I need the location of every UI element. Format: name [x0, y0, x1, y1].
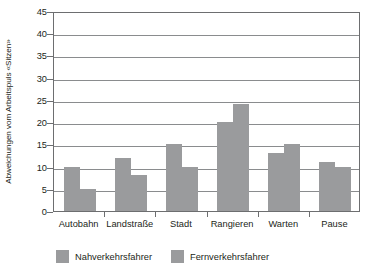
- y-axis-tick-label: 45: [37, 7, 47, 17]
- bar: [115, 158, 131, 211]
- bar: [319, 162, 335, 211]
- bar: [182, 167, 198, 211]
- x-axis-category-label: Pause: [321, 219, 347, 229]
- legend-label: Fernverkehrsfahrer: [190, 252, 269, 262]
- bar-chart-figure: Abweichungen vom Arbeitspuls «Sitzen» 05…: [0, 0, 369, 279]
- x-axis-tick-mark: [207, 212, 208, 217]
- y-axis-tick-label: 20: [37, 118, 47, 128]
- y-axis-title: Abweichungen vom Arbeitspuls «Sitzen»: [0, 0, 16, 222]
- legend-label: Nahverkehrsfahrer: [75, 252, 152, 262]
- bar: [217, 122, 233, 211]
- bar: [64, 167, 80, 211]
- x-axis-tick-mark: [309, 212, 310, 217]
- bar-group: [319, 13, 351, 211]
- plot-area: [53, 12, 360, 212]
- bar: [268, 153, 284, 211]
- bar-group: [64, 13, 96, 211]
- x-axis-category-label: Landstraße: [106, 219, 153, 229]
- x-axis-tick-mark: [258, 212, 259, 217]
- y-axis-tick-label: 35: [37, 51, 47, 61]
- x-axis-tick-marks: [53, 212, 360, 218]
- bar: [80, 189, 96, 211]
- y-axis-tick-label: 30: [37, 74, 47, 84]
- y-axis-tick-label: 10: [37, 163, 47, 173]
- y-axis-title-text: Abweichungen vom Arbeitspuls «Sitzen»: [4, 39, 13, 183]
- chart-legend: NahverkehrsfahrerFernverkehrsfahrer: [56, 250, 269, 263]
- bar: [335, 167, 351, 211]
- x-axis-category-label: Autobahn: [59, 219, 99, 229]
- bar: [284, 144, 300, 211]
- bar: [131, 175, 147, 211]
- bar-group: [268, 13, 300, 211]
- bar-group: [166, 13, 198, 211]
- x-axis-category-label: Rangieren: [211, 219, 254, 229]
- x-axis-category-label: Warten: [268, 219, 298, 229]
- legend-entry[interactable]: Fernverkehrsfahrer: [171, 250, 269, 263]
- y-axis-tick-label: 40: [37, 29, 47, 39]
- y-axis-tick-label: 25: [37, 96, 47, 106]
- legend-swatch-fernverkehrsfahrer: [171, 250, 184, 263]
- legend-swatch-nahverkehrsfahrer: [56, 250, 69, 263]
- y-axis-tick-labels: 051015202530354045: [18, 12, 50, 212]
- x-axis-tick-mark: [104, 212, 105, 217]
- bars-layer: [54, 13, 359, 211]
- legend-entry[interactable]: Nahverkehrsfahrer: [56, 250, 152, 263]
- x-axis-category-labels: AutobahnLandstraßeStadtRangierenWartenPa…: [53, 219, 360, 235]
- bar-group: [115, 13, 147, 211]
- y-axis-tick-label: 15: [37, 140, 47, 150]
- x-axis-tick-mark: [155, 212, 156, 217]
- bar-group: [217, 13, 249, 211]
- bar: [233, 104, 249, 211]
- x-axis-category-label: Stadt: [170, 219, 192, 229]
- bar: [166, 144, 182, 211]
